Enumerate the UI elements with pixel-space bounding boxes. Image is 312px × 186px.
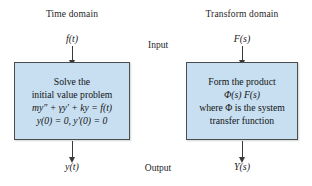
time-domain-heading: Time domain bbox=[14, 9, 130, 19]
output-symbol-time-domain: y(t) bbox=[14, 161, 130, 172]
input-label: Input bbox=[128, 40, 188, 50]
diagram-canvas: Time domain Transform domain f(t) F(s) I… bbox=[0, 0, 312, 186]
input-symbol-transform-domain: F(s) bbox=[186, 33, 298, 44]
time-domain-box: Solve the initial value problem my″ + γy… bbox=[14, 62, 130, 140]
output-label: Output bbox=[128, 163, 188, 173]
box-left-line-4: y(0) = 0, y′(0) = 0 bbox=[37, 114, 108, 127]
box-right-line-1: Form the product bbox=[208, 75, 275, 88]
output-symbol-transform-domain: Y(s) bbox=[186, 161, 298, 172]
transform-domain-box: Form the product Φ(s) F(s) where Φ is th… bbox=[186, 62, 298, 140]
box-right-line-2: Φ(s) F(s) bbox=[224, 88, 260, 101]
box-left-line-1: Solve the bbox=[54, 75, 90, 88]
box-left-line-3: my″ + γy′ + ky = f(t) bbox=[32, 101, 112, 114]
box-right-line-4: transfer function bbox=[210, 114, 274, 127]
box-left-line-2: initial value problem bbox=[32, 88, 113, 101]
input-symbol-time-domain: f(t) bbox=[14, 33, 130, 44]
output-arrow-time-icon bbox=[72, 141, 73, 158]
input-arrow-time-icon bbox=[72, 46, 73, 61]
box-right-line-3: where Φ is the system bbox=[199, 101, 285, 114]
output-arrow-transform-icon bbox=[242, 141, 243, 158]
input-arrow-transform-icon bbox=[242, 46, 243, 61]
transform-domain-heading: Transform domain bbox=[186, 9, 298, 19]
